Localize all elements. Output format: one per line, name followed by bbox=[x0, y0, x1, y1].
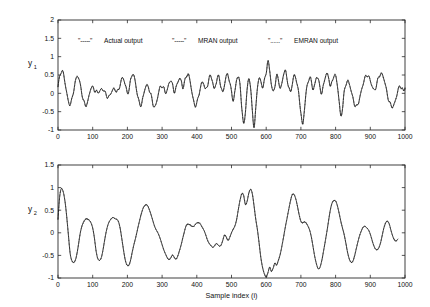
x-tick-label: 100 bbox=[87, 133, 99, 140]
legend-entry: "-----"MRAN output bbox=[172, 37, 238, 45]
y-tick-label: 2 bbox=[50, 16, 54, 23]
x-tick-label: 700 bbox=[295, 281, 307, 288]
legend-entry: "......"EMRAN output bbox=[268, 37, 338, 45]
x-tick-label: 200 bbox=[122, 133, 134, 140]
y-tick-label: 1 bbox=[50, 53, 54, 60]
legend-label: Actual output bbox=[104, 37, 143, 45]
y-axis-label-subscript: 2 bbox=[34, 210, 37, 216]
x-tick-label: 800 bbox=[330, 133, 342, 140]
x-tick-label: 0 bbox=[56, 281, 60, 288]
legend-label: EMRAN output bbox=[294, 37, 338, 45]
y-tick-label: 1 bbox=[50, 184, 54, 191]
x-tick-label: 400 bbox=[191, 281, 203, 288]
x-axis-label: Sample index (i) bbox=[206, 291, 258, 300]
legend-marker-dotted: "......" bbox=[268, 37, 283, 44]
x-tick-label: 500 bbox=[226, 133, 238, 140]
y-tick-label: 0 bbox=[50, 90, 54, 97]
y-tick-label: -0.5 bbox=[42, 252, 54, 259]
y-tick-label: 0.5 bbox=[45, 207, 55, 214]
x-tick-label: 300 bbox=[156, 281, 168, 288]
x-tick-label: 600 bbox=[261, 281, 273, 288]
x-tick-label: 1000 bbox=[397, 133, 412, 140]
x-tick-label: 0 bbox=[56, 133, 60, 140]
y-tick-label: 1.5 bbox=[45, 161, 55, 168]
y-tick-label: 0 bbox=[50, 229, 54, 236]
x-tick-label: 700 bbox=[295, 133, 307, 140]
x-tick-label: 600 bbox=[261, 133, 273, 140]
legend-entry: "-----"Actual output bbox=[78, 37, 143, 45]
x-tick-label: 200 bbox=[122, 281, 134, 288]
y-tick-label: -0.5 bbox=[42, 108, 54, 115]
figure-background bbox=[0, 0, 430, 307]
legend-marker-solid: "-----" bbox=[78, 37, 93, 44]
x-tick-label: 100 bbox=[87, 281, 99, 288]
legend-marker-dashed: "-----" bbox=[172, 37, 187, 44]
x-tick-label: 300 bbox=[156, 133, 168, 140]
legend-label: MRAN output bbox=[198, 37, 238, 45]
y-axis-label-subscript: 1 bbox=[34, 64, 37, 70]
x-tick-label: 900 bbox=[365, 133, 377, 140]
y-tick-label: 0.5 bbox=[45, 71, 55, 78]
y-tick-label: -1 bbox=[48, 126, 54, 133]
x-tick-label: 500 bbox=[226, 281, 238, 288]
x-tick-label: 400 bbox=[191, 133, 203, 140]
x-tick-label: 900 bbox=[365, 281, 377, 288]
figure-root: 01002003004005006007008009001000-1-0.500… bbox=[0, 0, 430, 307]
x-tick-label: 800 bbox=[330, 281, 342, 288]
x-tick-label: 1000 bbox=[397, 281, 412, 288]
y-tick-label: 1.5 bbox=[45, 35, 55, 42]
y-tick-label: -1 bbox=[48, 274, 54, 281]
